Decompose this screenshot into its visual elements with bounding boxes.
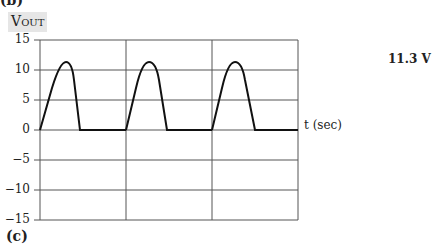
vout-waveform: [40, 62, 298, 130]
peak-annotation: 11.3 V: [388, 52, 431, 66]
x-axis-label: t (sec): [304, 118, 342, 132]
panel-label-c: (c): [6, 228, 28, 244]
plot-area: [0, 0, 432, 250]
